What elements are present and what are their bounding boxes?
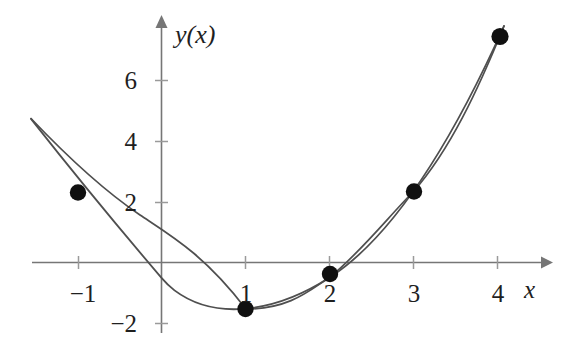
chart-figure: y(x) x 6 4 2 −2 −1 1 2 3 4 <box>0 0 567 349</box>
data-point-marker <box>406 183 422 199</box>
fitted-curve <box>31 26 504 309</box>
x-axis-arrowhead <box>541 257 553 269</box>
x-axis <box>32 257 553 269</box>
y-tick-label-neg2: −2 <box>95 311 137 336</box>
x-tick-label-1: 1 <box>233 281 259 306</box>
data-point-marker <box>491 28 508 45</box>
x-tick-label-neg1: −1 <box>63 281 103 306</box>
x-tick-label-3: 3 <box>401 281 427 306</box>
x-tick-label-4: 4 <box>485 281 511 306</box>
x-axis-title: x <box>524 277 535 302</box>
y-tick-label-2: 2 <box>105 190 137 215</box>
y-tick-label-4: 4 <box>105 129 137 154</box>
y-axis-title: y(x) <box>175 22 215 48</box>
y-axis-arrowhead <box>156 15 168 28</box>
y-tick-label-6: 6 <box>105 68 137 93</box>
x-tick-label-2: 2 <box>317 281 343 306</box>
data-point-marker <box>70 184 86 200</box>
y-axis <box>156 15 168 333</box>
